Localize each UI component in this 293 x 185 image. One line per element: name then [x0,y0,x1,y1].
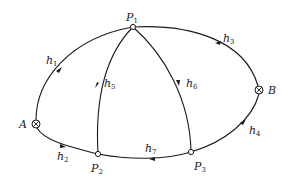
edge-h1 [36,27,133,120]
label-h2: h2 [57,150,69,164]
node-b-icon [255,86,263,94]
label-p1: P1 [125,11,138,25]
label-h6: h6 [186,77,198,91]
label-p2: P2 [90,162,103,176]
label-h5: h5 [104,77,116,91]
label-h7: h7 [145,142,157,156]
edge-h4 [191,94,259,152]
arrow-h5-icon [95,82,99,88]
edge-h6 [133,27,191,152]
network-diagram: P1 P2 P3 A B h1 h2 h3 h4 h5 h6 h7 [0,0,293,185]
arrow-h6-icon [176,80,180,86]
label-h4: h4 [249,124,261,138]
label-a: A [18,118,27,131]
edge-h3 [133,27,258,86]
arrow-h3-icon [215,41,221,45]
label-h1: h1 [46,54,58,68]
label-b: B [267,84,276,97]
node-p1-icon [130,24,135,29]
node-a-icon [32,120,40,128]
edge-h2 [37,128,98,154]
label-h3: h3 [223,32,235,46]
label-p3: P3 [193,160,206,174]
node-p2-icon [95,151,100,156]
node-p3-icon [188,149,193,154]
